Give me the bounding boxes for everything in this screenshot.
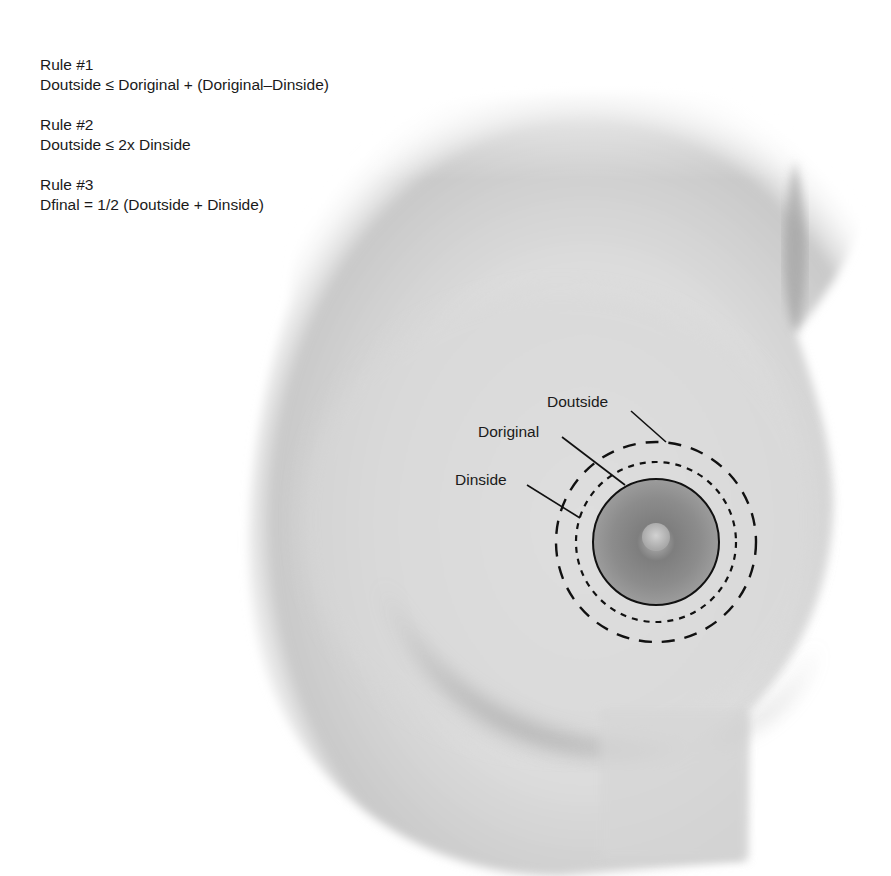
nipple (642, 523, 670, 551)
rules-block: Rule #1 Doutside ≤ Doriginal + (Dorigina… (40, 55, 329, 235)
rule-title: Rule #3 (40, 175, 329, 195)
rule-formula: Doutside ≤ Doriginal + (Doriginal–Dinsid… (40, 75, 329, 95)
rule-2: Rule #2 Doutside ≤ 2x Dinside (40, 115, 329, 155)
rule-3: Rule #3 Dfinal = 1/2 (Doutside + Dinside… (40, 175, 329, 215)
label-doriginal: Doriginal (478, 423, 539, 441)
rule-title: Rule #1 (40, 55, 329, 75)
rule-1: Rule #1 Doutside ≤ Doriginal + (Dorigina… (40, 55, 329, 95)
label-doutside: Doutside (547, 393, 608, 411)
label-dinside: Dinside (455, 471, 507, 489)
rule-formula: Doutside ≤ 2x Dinside (40, 135, 329, 155)
rule-title: Rule #2 (40, 115, 329, 135)
rule-formula: Dfinal = 1/2 (Doutside + Dinside) (40, 195, 329, 215)
